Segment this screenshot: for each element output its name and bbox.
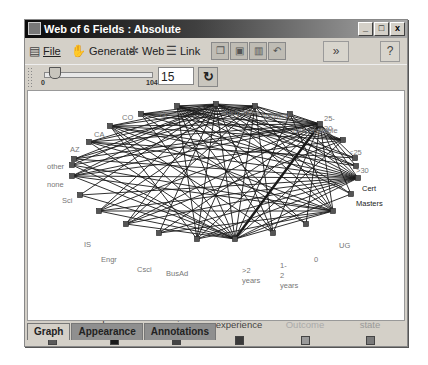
tab-annotations[interactable]: Annotations <box>144 323 216 340</box>
node-label: >30 <box>356 166 369 176</box>
legend-item[interactable]: state <box>335 319 405 345</box>
graph-node[interactable] <box>356 176 361 181</box>
graph-node[interactable] <box>97 209 102 214</box>
node-label: Engr <box>101 255 117 265</box>
slider-min-label: 0 <box>41 79 45 86</box>
link-icon: ☰ <box>166 44 177 58</box>
node-label: 1- 2 years <box>280 261 298 291</box>
menu-generate-label: Generate <box>89 45 135 57</box>
graph-link[interactable] <box>235 178 358 239</box>
threshold-toolbar: 0 104 15 ↻ <box>25 64 407 90</box>
graph-node[interactable] <box>87 140 92 145</box>
node-label: none <box>47 180 64 190</box>
node-label: AZ <box>70 145 80 155</box>
menu-web-label: Web <box>142 45 164 57</box>
graph-node[interactable] <box>70 163 75 168</box>
web-graph <box>28 91 404 320</box>
graph-node[interactable] <box>78 193 83 198</box>
slider-max-label: 104 <box>146 79 158 86</box>
title-bar[interactable]: Web of 6 Fields : Absolute _ □ x <box>25 20 407 38</box>
generate-icon: ✋ <box>71 44 86 58</box>
file-icon: ▤ <box>29 44 40 58</box>
window-title: Web of 6 Fields : Absolute <box>44 20 181 38</box>
node-label: Cert <box>362 184 376 194</box>
node-label: TX <box>158 110 168 120</box>
node-label: CA <box>94 130 104 140</box>
web-graph-window: Web of 6 Fields : Absolute _ □ x ▤ File … <box>24 19 408 347</box>
legend-swatch <box>301 336 310 345</box>
node-label: CO <box>122 113 133 123</box>
web-icon: ✲ <box>129 44 139 58</box>
help-button[interactable]: ? <box>380 41 400 62</box>
menu-link[interactable]: ☰ Link <box>166 44 200 58</box>
graph-node[interactable] <box>157 231 162 236</box>
graph-node[interactable] <box>70 174 75 179</box>
node-label: 0 <box>314 255 318 265</box>
double-chevron-icon: » <box>333 44 340 58</box>
tab-appearance[interactable]: Appearance <box>71 323 142 340</box>
node-label: UG <box>339 241 350 251</box>
menu-generate[interactable]: ✋ Generate <box>71 44 135 58</box>
close-button[interactable]: x <box>390 22 405 36</box>
slider-thumb[interactable] <box>49 67 61 79</box>
graph-node[interactable] <box>304 222 309 227</box>
node-label: <25 <box>349 148 362 158</box>
graph-link[interactable] <box>74 159 235 239</box>
menu-bar: ▤ File ✋ Generate ✲ Web ☰ Link ❐ ▣ ▥ ↶ »… <box>25 39 407 63</box>
node-label: >2 years <box>242 266 260 286</box>
node-label: unacceptable <box>293 126 338 136</box>
maximize-button[interactable]: □ <box>374 22 389 36</box>
help-icon: ? <box>387 44 394 58</box>
graph-node[interactable] <box>72 157 77 162</box>
graph-node[interactable] <box>124 222 129 227</box>
refresh-icon: ↻ <box>203 69 214 84</box>
graph-node[interactable] <box>175 104 180 109</box>
node-label: Masters <box>356 199 383 209</box>
graph-link[interactable] <box>74 159 358 178</box>
expand-button[interactable]: » <box>323 41 349 62</box>
graph-node[interactable] <box>139 112 144 117</box>
legend-swatch <box>366 336 375 345</box>
export-icon: ▣ <box>235 45 244 56</box>
node-label: minimal <box>263 111 289 121</box>
legend-swatch <box>235 336 244 345</box>
print-icon: ▥ <box>254 45 263 56</box>
node-label: Sci <box>62 196 72 206</box>
undo-icon: ↶ <box>273 45 281 56</box>
tab-strip: Graph Appearance Annotations <box>27 323 217 341</box>
graph-node[interactable] <box>341 138 346 143</box>
undo-button[interactable]: ↶ <box>268 42 286 60</box>
graph-node[interactable] <box>108 124 113 129</box>
graph-node[interactable] <box>271 231 276 236</box>
graph-node[interactable] <box>349 192 354 197</box>
menu-link-label: Link <box>180 45 200 57</box>
copy-button[interactable]: ❐ <box>211 42 229 60</box>
export-button[interactable]: ▣ <box>230 42 248 60</box>
graph-node[interactable] <box>195 237 200 242</box>
graph-node[interactable] <box>331 209 336 214</box>
node-label: IS <box>84 240 91 250</box>
node-label: BusAd <box>166 269 188 279</box>
legend-item[interactable]: Outcome <box>270 319 340 345</box>
print-button[interactable]: ▥ <box>249 42 267 60</box>
graph-node[interactable] <box>214 102 219 107</box>
toolbar-grip-handle[interactable] <box>27 67 33 87</box>
legend-label: Outcome <box>286 319 325 330</box>
menu-web[interactable]: ✲ Web <box>129 44 164 58</box>
tab-graph[interactable]: Graph <box>27 323 70 340</box>
legend-label: experience <box>216 319 262 330</box>
node-label: adequate <box>222 108 253 118</box>
menu-file-label: File <box>43 45 61 57</box>
threshold-value-input[interactable]: 15 <box>158 67 194 85</box>
refresh-button[interactable]: ↻ <box>198 67 218 87</box>
menu-file[interactable]: ▤ File <box>29 44 61 58</box>
minimize-button[interactable]: _ <box>358 22 373 36</box>
node-label: other <box>47 162 64 172</box>
copy-icon: ❐ <box>216 45 225 56</box>
legend-label: state <box>360 319 381 330</box>
node-label: Csci <box>137 265 152 275</box>
web-graph-canvas[interactable]: COCAAZothernoneSciISEngrCsciBusAd>2 year… <box>27 90 405 321</box>
app-icon <box>28 22 41 35</box>
graph-node[interactable] <box>233 237 238 242</box>
